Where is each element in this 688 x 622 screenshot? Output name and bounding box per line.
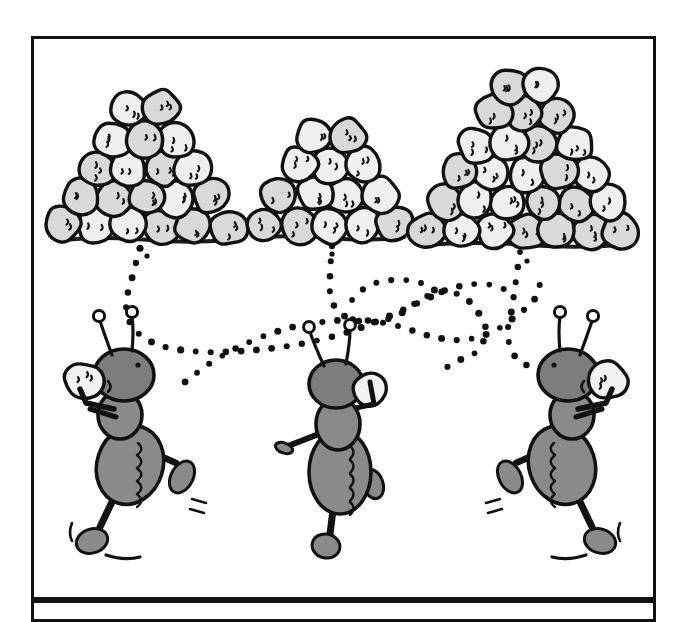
trail-dot [509, 315, 516, 322]
trail-dot [399, 309, 406, 316]
trail-dot [497, 325, 503, 331]
trail-dot [208, 349, 214, 355]
trail-dot [125, 289, 132, 296]
trail-dot [136, 245, 143, 252]
trail-dot [268, 345, 275, 352]
ant-eye [135, 362, 140, 367]
trail-dot [365, 317, 372, 324]
trail-dot [385, 316, 391, 322]
trail-dot [424, 332, 430, 338]
pebble [312, 208, 348, 244]
ink-fleck [144, 253, 149, 258]
trail-dot [360, 286, 366, 292]
antenna-knob-right [126, 306, 137, 317]
trail-dot [289, 324, 296, 331]
trail-dot [469, 336, 475, 342]
trail-dot [334, 317, 341, 324]
illustration-artboard [0, 0, 688, 622]
pebble-shape [247, 209, 281, 240]
trail-dot [327, 288, 333, 294]
trail-dot [517, 249, 523, 255]
trail-dot [373, 280, 379, 286]
trail-dot [531, 296, 538, 303]
cartoon-page: Ants carrying pebbles to piles [0, 0, 688, 622]
pebble-dimple [127, 229, 128, 233]
trail-dot [511, 352, 518, 359]
trail-dot [284, 343, 290, 349]
trail-dot [299, 341, 305, 347]
trail-dot [403, 277, 409, 283]
trail-dot [521, 307, 527, 313]
trail-dot [329, 334, 335, 340]
trail-dot [444, 364, 450, 370]
trail-dot [505, 324, 511, 330]
trail-dot [148, 338, 155, 345]
antenna-knob-left [93, 310, 104, 321]
trail-dot [510, 294, 516, 300]
trail-dot [319, 319, 325, 325]
trail-dot [501, 286, 507, 292]
trail-dot [471, 281, 477, 287]
pebble-shape [312, 208, 348, 244]
trail-dot [232, 345, 239, 352]
trail-dot [328, 258, 334, 264]
antenna-knob-right [554, 306, 565, 317]
pebble-dimple [486, 147, 487, 152]
pebble [297, 119, 332, 152]
trail-dot [438, 289, 445, 296]
trail-dot [418, 280, 424, 286]
trail-dot [341, 313, 348, 320]
trail-dot [456, 283, 462, 289]
trail-dot [431, 286, 438, 293]
illustration-svg [0, 0, 688, 622]
pebble [210, 212, 248, 244]
trail-dot [506, 339, 512, 345]
trail-dot [129, 274, 136, 281]
trail-dot [380, 320, 386, 326]
trail-dot [483, 331, 490, 338]
ant-antenna-right [132, 317, 133, 351]
antenna-knob-left [304, 322, 315, 333]
trail-dot [482, 323, 489, 330]
trail-dot [371, 319, 377, 325]
trail-dot [487, 282, 493, 288]
trail-dot [513, 279, 519, 285]
trail-dot [274, 328, 281, 335]
lower-panel [33, 602, 655, 621]
trail-dot [358, 324, 365, 331]
trail-dot [388, 277, 394, 283]
trail-dot [329, 243, 335, 249]
trail-dot [480, 338, 487, 345]
trail-dot [349, 297, 355, 303]
trail-dot [454, 337, 460, 343]
trail-dot [523, 362, 530, 369]
trail-dot [508, 309, 515, 316]
ink-fleck [524, 258, 529, 263]
trail-dot [454, 291, 460, 297]
trail-dot [136, 331, 142, 337]
trail-dot [331, 302, 338, 309]
trail-dot [182, 379, 189, 386]
trail-dot [395, 323, 401, 329]
trail-dot [515, 264, 522, 271]
antenna-knob-left [587, 310, 598, 321]
pebble-shape [523, 68, 558, 103]
trail-dot [475, 310, 482, 317]
trail-dot [424, 293, 430, 299]
trail-dot [472, 350, 478, 356]
trail-dot [409, 327, 416, 334]
pebble [261, 179, 296, 213]
trail-dot [438, 335, 445, 342]
pebble-shape [297, 119, 332, 152]
trail-dot [246, 339, 252, 345]
trail-dot [219, 353, 225, 359]
trail-dot [206, 361, 212, 367]
trail-dot [537, 282, 543, 288]
trail-dot [261, 333, 267, 339]
trail-dot [163, 344, 169, 350]
pebble [523, 68, 558, 103]
pebble [247, 209, 281, 240]
trail-dot [411, 301, 417, 307]
antenna-knob-right [345, 320, 356, 331]
trail-dot [253, 346, 260, 353]
